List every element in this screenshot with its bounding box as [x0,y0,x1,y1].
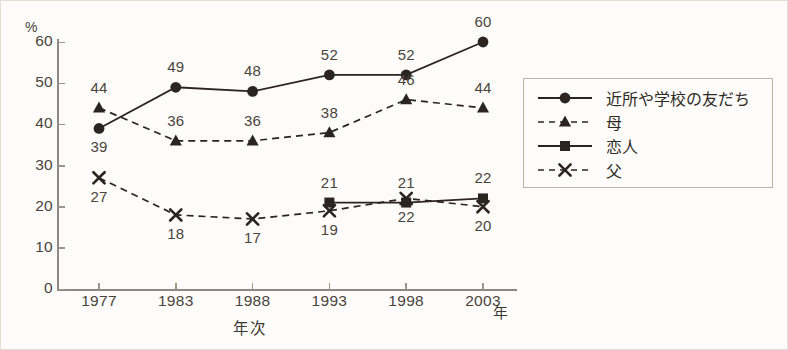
data-point-label: 39 [79,138,119,155]
legend-item-label: 近所や学校の友だち [606,86,750,110]
data-point-label: 52 [309,46,349,63]
data-point-label: 49 [156,58,196,75]
legend-item-3[interactable]: 恋人 [534,135,638,157]
data-point-label: 21 [386,174,426,191]
series-4 [93,172,488,224]
legend-item-label: 父 [606,158,622,182]
data-point-label: 27 [79,188,119,205]
legend-item-label: 恋人 [606,134,638,158]
data-point-label: 60 [463,13,503,30]
data-point-label: 52 [386,46,426,63]
chart-figure: % 0102030405060 197719831988199319982003… [0,0,788,350]
data-point-label: 44 [79,79,119,96]
data-point-label: 36 [156,112,196,129]
data-point-label: 46 [386,71,426,88]
data-point-label: 19 [309,221,349,238]
legend-item-2[interactable]: 母 [534,111,622,133]
x-axis-title: 年次 [233,316,267,338]
series-2 [93,93,489,145]
data-point-label: 20 [463,217,503,234]
data-point-label: 44 [463,79,503,96]
data-point-label: 48 [233,62,273,79]
x-axis-unit-label: 年 [493,301,508,322]
data-point-label: 21 [309,174,349,191]
data-point-label: 17 [233,229,273,246]
data-point-label: 38 [309,104,349,121]
triangle-marker [534,112,596,132]
circle-marker [534,88,596,108]
series-3 [324,193,488,207]
legend-item-4[interactable]: 父 [534,159,622,181]
chart-legend: 近所や学校の友だち母恋人父 [523,78,773,188]
legend-item-1[interactable]: 近所や学校の友だち [534,87,750,109]
data-point-label: 18 [156,225,196,242]
square-marker [534,136,596,156]
data-point-label: 22 [463,169,503,186]
data-point-label: 36 [233,112,273,129]
series-1 [94,37,489,134]
legend-item-label: 母 [606,110,622,134]
data-point-label: 22 [386,208,426,225]
x-marker [534,160,596,180]
